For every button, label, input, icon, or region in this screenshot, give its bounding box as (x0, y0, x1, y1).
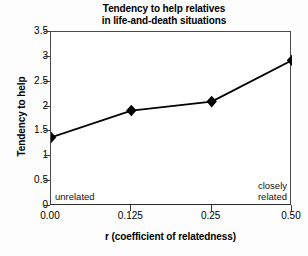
annotation-unrelated: unrelated (55, 192, 95, 203)
y-tick-label: 0 (8, 200, 48, 210)
data-point-marker (206, 96, 216, 108)
data-point-marker (126, 105, 136, 117)
y-tick-label: 3.5 (8, 26, 48, 36)
y-tick-label: 1.5 (8, 125, 48, 135)
x-tick-label: 0.50 (261, 210, 308, 221)
y-tick-label: 0.5 (8, 175, 48, 185)
y-tick-label: 3 (8, 51, 48, 61)
x-tick-label: 0.00 (20, 210, 80, 221)
chart-title-line-2: in life-and-death situations (36, 15, 292, 27)
y-tick-mark (44, 205, 50, 206)
y-tick-label: 2 (8, 101, 48, 111)
y-tick-label: 2.5 (8, 76, 48, 86)
chart-figure: Tendency to help relatives in life-and-d… (0, 0, 308, 256)
annotation-closely-related-line-1: closely (258, 181, 287, 192)
x-tick-label: 0.25 (181, 210, 241, 221)
data-series-line (51, 32, 292, 206)
annotation-closely-related-line-2: related (258, 192, 287, 203)
y-tick-label: 1 (8, 150, 48, 160)
x-tick-label: 0.125 (100, 210, 160, 221)
plot-area: unrelated closely related (50, 31, 291, 205)
series-line (51, 60, 292, 137)
chart-title-line-1: Tendency to help relatives (36, 3, 292, 15)
y-axis-title: Tendency to help (16, 42, 27, 192)
data-point-marker (51, 132, 56, 144)
x-axis-title: r (coefficient of relatedness) (50, 231, 291, 242)
data-point-marker (287, 55, 292, 67)
chart-title: Tendency to help relatives in life-and-d… (36, 3, 292, 27)
annotation-closely-related: closely related (258, 181, 287, 202)
